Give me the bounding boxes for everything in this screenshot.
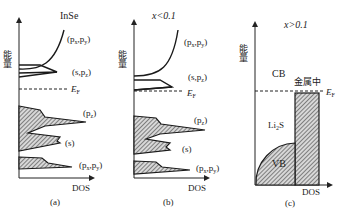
label-spz-a: (s,pz) (72, 67, 91, 78)
label-pxpy-vb-a: (px,py) (79, 160, 102, 171)
panel-c: x>0.1 能量 CB 金属中 EF Li2S VB DOS (c) (238, 19, 336, 208)
dos-label-c: DOS (302, 187, 320, 197)
energy-label-b: 能量 (117, 49, 127, 68)
band-pxpy-conduction-a (19, 30, 64, 69)
label-pz-a: (pz) (83, 108, 96, 119)
metal-label: 金属中 (294, 76, 321, 87)
svg-text:能量: 能量 (117, 49, 127, 68)
panel-b: x<0.1 能量 (px,py) (s,pz) EF (pz) (s) (px,… (117, 10, 219, 207)
label-pz-b: (pz) (194, 115, 207, 126)
label-pxpy-vb-b: (px,py) (196, 163, 219, 174)
caption-a: (a) (50, 197, 60, 207)
caption-c: (c) (285, 198, 295, 208)
caption-b: (b) (163, 197, 174, 207)
svg-text:能量: 能量 (238, 43, 248, 62)
label-s-b: (s) (182, 144, 192, 154)
label-pxpy-cb-a: (px,py) (67, 34, 90, 45)
band-pxpy-valence-a (19, 157, 72, 169)
panel-c-title: x>0.1 (283, 19, 308, 30)
dos-diagram: InSe 能量 (px,py) (s,pz) EF (pz) (s) (px,p… (0, 0, 342, 212)
energy-label-c: 能量 (238, 43, 248, 62)
panel-a: InSe 能量 (px,py) (s,pz) EF (pz) (s) (px,p… (2, 10, 102, 207)
panel-a-title: InSe (60, 10, 79, 21)
label-s-a: (s) (65, 138, 75, 148)
metal-dos-block (295, 93, 319, 185)
band-pxpy-valence-b (134, 161, 190, 174)
panel-b-title: x<0.1 (151, 10, 176, 21)
band-pxpy-conduction-b (134, 30, 178, 76)
fermi-label-a: EF (70, 84, 81, 95)
vb-label: VB (272, 158, 286, 169)
label-spz-b: (s,pz) (188, 72, 207, 83)
svg-text:能量: 能量 (2, 49, 12, 68)
dos-label-b: DOS (188, 183, 206, 193)
energy-label-a: 能量 (2, 49, 12, 68)
li2s-label: Li2S (268, 120, 284, 131)
cb-label: CB (272, 68, 286, 79)
label-pxpy-cb-b: (px,py) (184, 37, 207, 48)
dos-label-a: DOS (72, 183, 90, 193)
band-pz-s-a (19, 106, 86, 151)
fermi-label-c: EF (325, 87, 336, 98)
fermi-label-b: EF (186, 88, 197, 99)
